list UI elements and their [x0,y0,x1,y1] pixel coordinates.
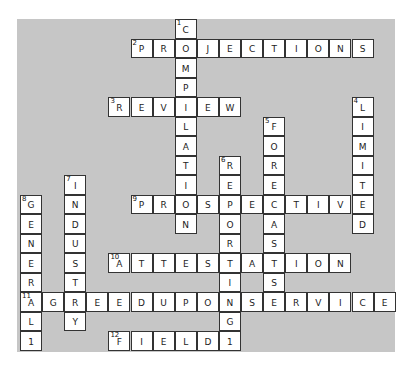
crossword-cell[interactable]: E [352,195,374,215]
crossword-cell[interactable]: E [219,39,241,59]
crossword-cell[interactable]: E [108,292,130,312]
crossword-cell[interactable]: S [197,195,219,215]
crossword-cell[interactable]: D [64,214,86,234]
crossword-cell[interactable]: S [64,253,86,273]
crossword-cell[interactable]: U [64,234,86,254]
crossword-cell[interactable]: V [329,195,351,215]
crossword-cell[interactable]: R [20,273,42,293]
crossword-cell[interactable]: I [352,156,374,176]
crossword-cell[interactable]: I [329,292,351,312]
crossword-cell[interactable]: I [307,195,329,215]
crossword-cell[interactable]: T [153,253,175,273]
crossword-cell[interactable]: D [131,292,153,312]
crossword-cell[interactable]: 6R [219,156,241,176]
crossword-cell[interactable]: T [263,39,285,59]
crossword-cell[interactable]: R [219,234,241,254]
crossword-cell[interactable]: O [219,214,241,234]
crossword-cell[interactable]: G [219,312,241,332]
crossword-cell[interactable]: D [197,331,219,351]
crossword-cell[interactable]: I [285,253,307,273]
crossword-cell[interactable]: R [263,156,285,176]
crossword-cell[interactable]: P [175,292,197,312]
crossword-cell[interactable]: R [153,39,175,59]
crossword-cell[interactable]: I [352,117,374,137]
crossword-cell[interactable]: S [263,273,285,293]
crossword-cell[interactable]: R [285,292,307,312]
crossword-cell[interactable]: R [64,292,86,312]
crossword-cell[interactable]: T [352,175,374,195]
crossword-cell[interactable]: C [352,292,374,312]
crossword-cell[interactable]: E [153,331,175,351]
crossword-cell[interactable]: L [20,312,42,332]
crossword-cell[interactable]: E [197,97,219,117]
crossword-cell[interactable]: N [329,253,351,273]
crossword-cell[interactable]: O [175,39,197,59]
crossword-cell[interactable]: 2P [131,39,153,59]
crossword-cell[interactable]: N [219,292,241,312]
crossword-cell[interactable]: 1C [175,19,197,39]
crossword-cell[interactable]: L [175,117,197,137]
crossword-cell[interactable]: C [241,39,263,59]
crossword-cell[interactable]: I [219,273,241,293]
crossword-cell[interactable]: E [263,292,285,312]
crossword-cell[interactable]: I [131,331,153,351]
crossword-cell[interactable]: 5F [263,117,285,137]
crossword-cell[interactable]: D [352,214,374,234]
crossword-cell[interactable]: I [175,175,197,195]
crossword-cell[interactable]: T [285,195,307,215]
crossword-cell[interactable]: V [153,97,175,117]
crossword-cell[interactable]: U [153,292,175,312]
crossword-cell[interactable]: W [219,97,241,117]
crossword-cell[interactable]: E [241,195,263,215]
crossword-cell[interactable]: S [197,253,219,273]
crossword-cell[interactable]: A [263,214,285,234]
crossword-cell[interactable]: E [131,97,153,117]
crossword-cell[interactable]: 7I [64,175,86,195]
crossword-cell[interactable]: 9P [131,195,153,215]
crossword-cell[interactable]: 4L [352,97,374,117]
crossword-cell[interactable]: P [175,78,197,98]
crossword-cell[interactable]: 8G [20,195,42,215]
crossword-cell[interactable]: E [20,253,42,273]
crossword-cell[interactable]: A [175,136,197,156]
crossword-cell[interactable]: N [20,234,42,254]
crossword-cell[interactable]: N [175,214,197,234]
crossword-cell[interactable]: O [307,253,329,273]
crossword-cell[interactable]: Y [64,312,86,332]
crossword-cell[interactable]: 1 [20,331,42,351]
crossword-cell[interactable]: T [64,273,86,293]
crossword-cell[interactable]: E [86,292,108,312]
crossword-cell[interactable]: L [175,331,197,351]
crossword-cell[interactable]: 10A [108,253,130,273]
crossword-cell[interactable]: E [175,253,197,273]
crossword-cell[interactable]: I [175,97,197,117]
crossword-cell[interactable]: T [263,253,285,273]
crossword-cell[interactable]: C [263,195,285,215]
crossword-cell[interactable]: M [352,136,374,156]
crossword-cell[interactable]: E [219,175,241,195]
crossword-cell[interactable]: T [175,156,197,176]
crossword-cell[interactable]: E [20,214,42,234]
crossword-cell[interactable]: J [197,39,219,59]
crossword-cell[interactable]: S [241,292,263,312]
crossword-cell[interactable]: G [42,292,64,312]
crossword-cell[interactable]: E [263,175,285,195]
crossword-cell[interactable]: R [153,195,175,215]
crossword-cell[interactable]: O [263,136,285,156]
crossword-cell[interactable]: O [197,292,219,312]
crossword-cell[interactable]: S [263,234,285,254]
crossword-cell[interactable]: O [175,195,197,215]
crossword-cell[interactable]: M [175,58,197,78]
crossword-cell[interactable]: N [329,39,351,59]
crossword-cell[interactable]: E [374,292,396,312]
crossword-cell[interactable]: 3R [108,97,130,117]
crossword-cell[interactable]: A [241,253,263,273]
crossword-cell[interactable]: V [307,292,329,312]
crossword-cell[interactable]: 12F [108,331,130,351]
crossword-cell[interactable]: 11A [20,292,42,312]
crossword-cell[interactable]: O [307,39,329,59]
crossword-cell[interactable]: T [219,253,241,273]
crossword-cell[interactable]: 1 [219,331,241,351]
crossword-cell[interactable]: S [352,39,374,59]
crossword-cell[interactable]: N [64,195,86,215]
